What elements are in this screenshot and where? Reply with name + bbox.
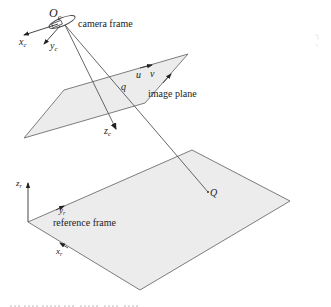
z-camera-label: zc [103,125,112,138]
image-point-q-label: q [121,81,126,92]
y-camera-label: yc [49,40,58,53]
z-reference-label: zr [15,178,23,189]
camera-projection-diagram: Oc camera frame xc yc zc u v q image pla… [0,0,331,307]
reference-frame-label: reference frame [53,217,117,228]
camera-frame-label: camera frame [78,18,133,29]
faint-edge-marks [315,35,318,47]
world-point-Q-marker [207,191,209,193]
world-point-Q-label: Q [210,187,218,198]
x-camera-label: xc [18,36,27,49]
u-label: u [136,69,141,80]
image-plane-label: image plane [148,88,197,99]
v-label: v [150,68,155,79]
x-reference-label: xr [55,246,63,257]
camera-origin-label: Oc [49,6,62,22]
